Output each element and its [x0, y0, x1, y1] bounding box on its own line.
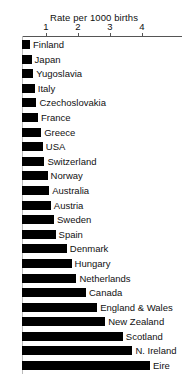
bar: [22, 171, 48, 180]
bar-category-label: England & Wales: [100, 302, 173, 313]
bar: [22, 288, 86, 297]
bar-row: Spain: [0, 228, 188, 243]
bar-row: Switzerland: [0, 155, 188, 170]
bar-category-label: Switzerland: [47, 156, 96, 167]
bar-row: N. Ireland: [0, 344, 188, 359]
bar-row: USA: [0, 140, 188, 155]
bar: [22, 40, 30, 49]
bar: [22, 346, 132, 355]
bar-category-label: USA: [46, 141, 66, 152]
bar-category-label: Finland: [33, 39, 64, 50]
bar: [22, 186, 49, 195]
bar: [22, 244, 67, 253]
bar-rows: FinlandJapanYugoslaviaItalyCzechoslovaki…: [0, 38, 188, 374]
bar: [22, 332, 123, 341]
bar-row: Scotland: [0, 330, 188, 345]
x-axis-tick-label: 3: [103, 21, 117, 32]
bar: [22, 113, 38, 122]
bar-category-label: Netherlands: [79, 273, 130, 284]
bar-row: Netherlands: [0, 272, 188, 287]
bar-category-label: Italy: [38, 83, 55, 94]
bar-row: Denmark: [0, 242, 188, 257]
bar: [22, 84, 35, 93]
bar: [22, 142, 43, 151]
bar-category-label: Australia: [52, 185, 89, 196]
bar: [22, 98, 36, 107]
bar: [22, 230, 56, 239]
bar-category-label: Japan: [35, 54, 61, 65]
x-axis-tick-label: 4: [135, 21, 149, 32]
bar-row: New Zealand: [0, 315, 188, 330]
bar: [22, 259, 72, 268]
bar-category-label: Spain: [59, 229, 83, 240]
bar-category-label: Scotland: [126, 331, 163, 342]
bar: [22, 128, 41, 137]
bar: [22, 201, 51, 210]
bar-row: Finland: [0, 38, 188, 53]
bar-row: France: [0, 111, 188, 126]
bar-category-label: Hungary: [75, 258, 111, 269]
x-axis-tick-label: 2: [71, 21, 85, 32]
bar-row: Austria: [0, 199, 188, 214]
bar-row: Hungary: [0, 257, 188, 272]
bar-category-label: Norway: [51, 170, 83, 181]
bar-category-label: Greece: [44, 127, 75, 138]
bar-row: Greece: [0, 126, 188, 141]
bar: [22, 317, 105, 326]
bar-category-label: Eire: [153, 360, 170, 371]
bar-row: Norway: [0, 169, 188, 184]
bar-category-label: New Zealand: [108, 316, 164, 327]
bar-category-label: Denmark: [70, 243, 109, 254]
bar-category-label: France: [41, 112, 71, 123]
bar-row: England & Wales: [0, 301, 188, 316]
bar-category-label: N. Ireland: [135, 345, 176, 356]
x-axis-tick-label: 1: [39, 21, 53, 32]
bar-row: Japan: [0, 53, 188, 68]
bar-row: Canada: [0, 286, 188, 301]
bar: [22, 215, 54, 224]
horizontal-bar-chart: Rate per 1000 births 1234 FinlandJapanYu…: [0, 0, 188, 381]
bar-row: Yugoslavia: [0, 67, 188, 82]
bar-category-label: Czechoslovakia: [39, 97, 106, 108]
x-axis-line: [22, 36, 182, 37]
chart-axis-title: Rate per 1000 births: [0, 12, 188, 23]
bar: [22, 157, 44, 166]
bar-row: Australia: [0, 184, 188, 199]
bar-row: Sweden: [0, 213, 188, 228]
bar-category-label: Yugoslavia: [36, 68, 82, 79]
bar: [22, 361, 150, 370]
bar-row: Eire: [0, 359, 188, 374]
bar: [22, 303, 97, 312]
bar-row: Italy: [0, 82, 188, 97]
bar-category-label: Canada: [89, 287, 122, 298]
bar-row: Czechoslovakia: [0, 96, 188, 111]
bar-category-label: Austria: [54, 200, 84, 211]
bar: [22, 69, 33, 78]
bar-category-label: Sweden: [57, 214, 91, 225]
bar: [22, 274, 76, 283]
bar: [22, 55, 32, 64]
